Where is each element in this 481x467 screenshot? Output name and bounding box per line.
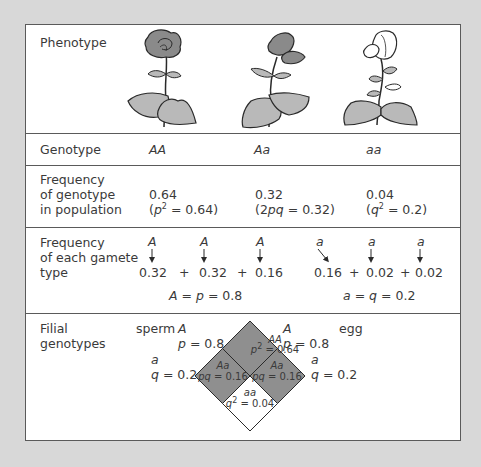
genotype-frequency-row: Frequency of genotype in population 0.64… — [26, 165, 460, 228]
recessive-allele-sum: a = q = 0.2 — [343, 288, 415, 303]
cell-Aa-left-frequency: pq = 0.16 — [196, 371, 250, 382]
genotype-Aa: Aa — [254, 142, 270, 157]
small-leaf-right — [166, 72, 181, 78]
cell-Aa-right-frequency: pq = 0.16 — [250, 371, 304, 382]
gamete-value-a-1: 0.16 — [314, 265, 342, 280]
cell-aa-frequency: q2 = 0.04 — [216, 398, 284, 409]
small-leaf-left — [148, 71, 166, 77]
gamete-value-A-2: 0.32 — [199, 265, 227, 280]
filial-genotypes-row: Filial genotypes sperm A p = 0.8 a q = 0… — [26, 313, 460, 441]
freq-Aa-expression: (2pq = 0.32) — [255, 202, 335, 217]
plus-sign: + — [179, 265, 189, 280]
egg-a-frequency: q = 0.2 — [311, 367, 357, 382]
flower-Aa-illustration — [229, 29, 319, 129]
gamete-value-A-1: 0.32 — [139, 265, 167, 280]
hardy-weinberg-panel: Phenotype — [25, 24, 461, 441]
freq-AA-expression: (p2 = 0.64) — [149, 202, 218, 217]
phenotype-label: Phenotype — [40, 35, 107, 50]
big-leaf-left — [344, 101, 381, 125]
freq-AA-value: 0.64 — [149, 187, 177, 202]
phenotype-row: Phenotype — [26, 25, 460, 134]
big-leaf-right — [158, 99, 196, 124]
arrow-diagonal-icon — [318, 249, 327, 260]
freq-Aa-value: 0.32 — [255, 187, 283, 202]
small-leaf-left — [251, 68, 274, 77]
egg-label: egg — [339, 321, 363, 336]
small-leaf-2 — [369, 76, 383, 82]
plus-sign: + — [237, 265, 247, 280]
cell-Aa-right-genotype: Aa — [252, 360, 302, 371]
genotype-label: Genotype — [40, 142, 101, 157]
filial-genotypes-label: Filial genotypes — [40, 321, 106, 351]
dominant-allele-sum: A = p = 0.8 — [169, 288, 242, 303]
sperm-a-frequency: q = 0.2 — [151, 367, 197, 382]
small-leaf-1 — [383, 67, 397, 74]
small-leaf-3 — [385, 84, 401, 90]
plus-sign: + — [349, 265, 359, 280]
plus-sign: + — [400, 265, 410, 280]
sperm-allele-a: a — [151, 352, 159, 367]
sperm-label: sperm — [136, 321, 175, 336]
flower-aa-illustration — [341, 29, 421, 129]
cell-AA-frequency: p2 = 0.64 — [237, 344, 313, 355]
flower-head-lower — [282, 51, 305, 63]
gamete-value-a-3: 0.02 — [415, 265, 443, 280]
flower-head — [145, 30, 181, 58]
small-leaf-4 — [367, 91, 381, 96]
sperm-allele-A: A — [178, 321, 187, 336]
genotype-aa: aa — [366, 142, 381, 157]
freq-aa-value: 0.04 — [366, 187, 394, 202]
genotype-row: Genotype AA Aa aa — [26, 133, 460, 166]
freq-aa-expression: (q2 = 0.2) — [366, 202, 427, 217]
genotype-AA: AA — [149, 142, 166, 157]
gamete-value-A-3: 0.16 — [255, 265, 283, 280]
flower-AA-illustration — [126, 29, 206, 129]
small-leaf-right — [274, 73, 291, 79]
cell-Aa-left-genotype: Aa — [198, 360, 248, 371]
genotype-frequency-label: Frequency of genotype in population — [40, 172, 122, 217]
gamete-frequency-row: Frequency of each gamete type A A A a a … — [26, 227, 460, 314]
big-leaf-right — [381, 103, 417, 125]
gamete-value-a-2: 0.02 — [366, 265, 394, 280]
